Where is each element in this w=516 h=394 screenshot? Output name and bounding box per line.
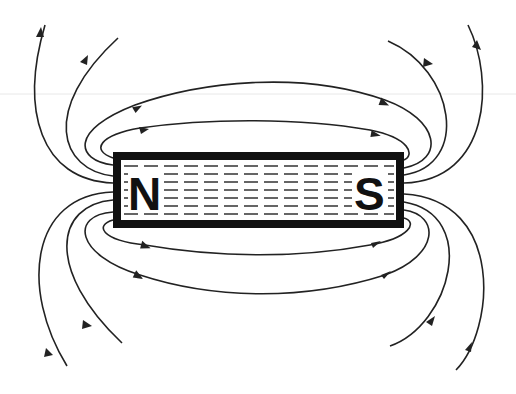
arrow-icon <box>132 105 143 113</box>
north-pole-label: N <box>128 168 161 220</box>
arrow-icon <box>80 55 88 65</box>
arrow-icon <box>423 58 433 67</box>
bar-magnet: N S <box>117 156 400 224</box>
arrow-icon <box>381 271 391 279</box>
arrow-icon <box>465 342 472 352</box>
arrow-icon <box>82 320 92 329</box>
field-line-left-top-inner <box>66 38 118 176</box>
field-line-left-top-outer <box>35 25 113 183</box>
arrow-icon <box>44 348 53 357</box>
arrow-icon <box>139 127 149 134</box>
arrow-icon <box>371 241 381 248</box>
arrow-icon <box>472 40 481 50</box>
south-pole-label: S <box>354 168 385 220</box>
bar-magnet-field-diagram: N S <box>0 0 516 394</box>
